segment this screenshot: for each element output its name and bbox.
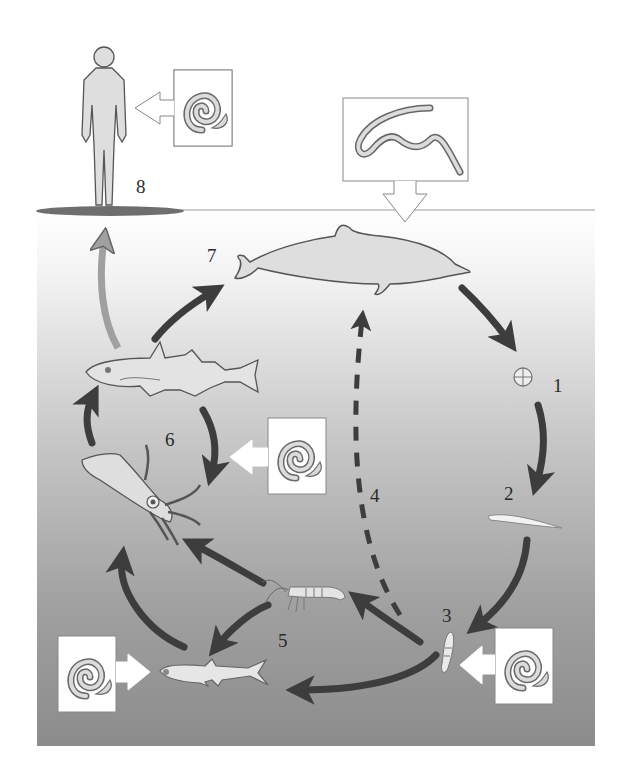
human-icon xyxy=(82,47,126,205)
stage-label-2: 2 xyxy=(504,483,514,504)
stage-label-6: 6 xyxy=(165,429,175,450)
stage-label-5: 5 xyxy=(278,630,288,651)
inset-coiled-larva-human xyxy=(135,70,232,146)
egg-icon xyxy=(514,368,532,386)
stage-label-7: 7 xyxy=(207,245,217,266)
stage-label-8: 8 xyxy=(136,176,146,197)
life-cycle-diagram: 8 7 4 1 2 xyxy=(0,0,628,783)
stage-label-3: 3 xyxy=(442,605,452,626)
stage-label-4: 4 xyxy=(370,485,380,506)
stage-label-1: 1 xyxy=(553,375,563,396)
ground xyxy=(36,206,184,216)
inset-adult-worm xyxy=(343,98,468,222)
